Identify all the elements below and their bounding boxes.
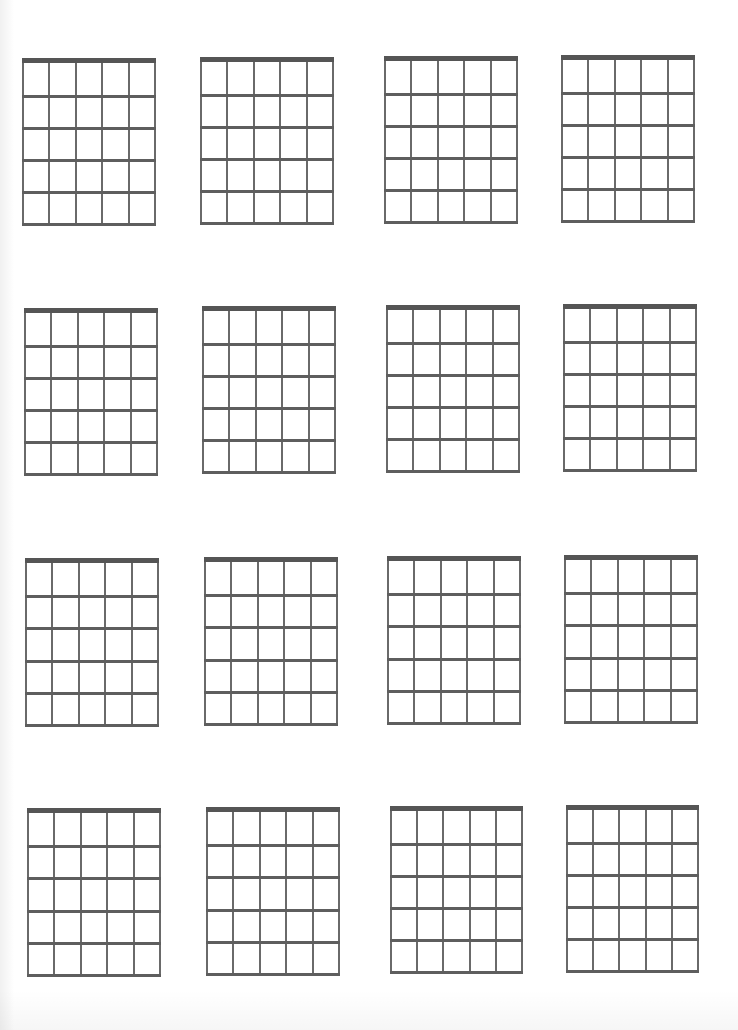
fret-line [566,938,699,941]
fret-line [387,722,521,725]
string-line [564,560,566,724]
string-line [561,60,563,223]
string-line [338,812,340,976]
string-line [645,810,647,973]
string-line [206,812,208,976]
fret-line [566,842,699,845]
string-line [75,63,77,226]
string-line [697,810,699,973]
fret-line [202,343,336,346]
chord-diagram-r2-c4 [563,304,697,472]
string-line [410,61,412,224]
chord-diagram-r2-c1 [24,308,158,476]
string-line [521,811,523,974]
string-line [154,63,156,226]
chord-diagram-r2-c3 [386,305,520,473]
string-line [257,562,259,726]
chord-diagram-r3-c2 [204,557,338,726]
fretboard [387,561,521,725]
string-line [669,309,671,472]
fret-line [204,691,338,694]
fret-line [200,190,334,193]
fret-line [390,907,523,910]
string-line [255,311,257,474]
fret-line [386,406,520,409]
chord-diagram-r1-c3 [384,56,518,224]
string-line [53,813,55,977]
fret-line [563,341,697,344]
string-line [131,563,133,727]
fret-line [563,373,697,376]
string-line [308,311,310,474]
fret-line [384,157,518,160]
fretboard [566,810,699,973]
string-line [587,60,589,223]
string-line [306,62,308,225]
fretboard [22,63,156,226]
fret-line [386,438,520,441]
fret-line [27,974,161,977]
string-line [156,313,158,476]
string-line [80,813,82,977]
fretboard [564,560,698,724]
string-line [384,61,386,224]
string-line [563,309,565,472]
fret-line [563,469,697,472]
string-line [618,810,620,973]
string-line [440,561,442,725]
string-line [465,310,467,473]
fret-line [200,94,334,97]
string-line [390,811,392,974]
fret-line [27,877,161,880]
chord-diagram-r1-c1 [22,58,156,226]
chord-diagram-r4-c1 [27,808,161,977]
string-line [416,811,418,974]
fret-line [27,942,161,945]
fret-line [200,158,334,161]
string-line [159,813,161,977]
fret-line [564,689,698,692]
fret-line [566,970,699,973]
string-line [566,810,568,973]
chord-diagram-r2-c2 [202,306,336,474]
string-line [490,61,492,224]
string-line [413,561,415,725]
fret-line [390,875,523,878]
string-line [103,313,105,476]
fret-line [24,441,158,444]
fret-line [561,188,695,191]
fret-line [27,910,161,913]
fret-line [200,222,334,225]
string-line [22,63,24,226]
string-line [200,62,202,225]
fretboard [25,563,159,727]
string-line [695,309,697,472]
chord-diagram-r4-c2 [206,807,340,976]
fret-line [384,125,518,128]
string-line [128,63,130,226]
string-line [592,810,594,973]
string-line [696,560,698,724]
string-line [106,813,108,977]
fret-line [22,191,156,194]
string-line [466,561,468,725]
string-line [51,563,53,727]
string-line [693,60,695,223]
string-line [202,311,204,474]
fret-line [200,126,334,129]
string-line [516,61,518,224]
fret-line [566,906,699,909]
string-line [285,812,287,976]
fret-line [384,93,518,96]
string-line [77,313,79,476]
fret-line [202,407,336,410]
fret-line [206,941,340,944]
string-line [387,561,389,725]
string-line [670,560,672,724]
fret-line [202,471,336,474]
fretboard [24,313,158,476]
fret-line [563,405,697,408]
string-line [442,811,444,974]
fret-line [24,345,158,348]
string-line [312,812,314,976]
